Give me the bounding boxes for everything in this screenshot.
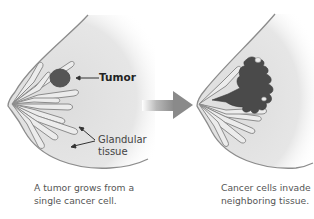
- glandular-tissue-label-line2: tissue: [98, 146, 128, 158]
- breast-cancer-diagram: Tumor Glandular tissue A tumor grows fro…: [0, 0, 314, 219]
- caption-before-line1: A tumor grows from a: [34, 181, 134, 194]
- caption-after-line2: neighboring tissue.: [221, 194, 311, 207]
- tumor: [50, 69, 70, 87]
- caption-after: Cancer cells invade neighboring tissue.: [221, 181, 311, 207]
- caption-before-line2: single cancer cell.: [34, 194, 134, 207]
- right-breast: [197, 14, 314, 168]
- caption-after-line1: Cancer cells invade: [221, 181, 311, 194]
- tumor-label: Tumor: [99, 71, 136, 83]
- glandular-tissue-label-line1: Glandular: [98, 134, 147, 146]
- caption-before: A tumor grows from a single cancer cell.: [34, 181, 134, 207]
